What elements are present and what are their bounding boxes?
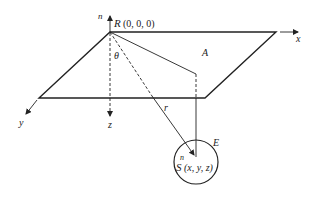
label-sphere-e: E	[212, 137, 219, 148]
label-target-coords: (x, y, z)	[184, 162, 214, 174]
label-r: r	[164, 102, 168, 113]
label-target-s: S	[176, 161, 182, 173]
projection-line	[110, 32, 196, 74]
y-axis-arrow	[26, 100, 37, 114]
r-distance-dashed	[110, 32, 152, 96]
plane-a	[39, 32, 276, 98]
label-origin-r: R	[113, 17, 121, 29]
label-x-axis: x	[295, 33, 301, 44]
r-distance-solid	[152, 96, 194, 155]
label-origin-coords: (0, 0, 0)	[123, 18, 155, 30]
coordinate-diagram: n R (0, 0, 0) x y z θ A r E n S (x, y, z…	[0, 0, 311, 198]
label-n-top: n	[98, 11, 103, 21]
label-plane-a: A	[201, 47, 209, 58]
label-y-axis: y	[18, 117, 24, 128]
label-theta: θ	[114, 50, 119, 61]
diagram-canvas: n R (0, 0, 0) x y z θ A r E n S (x, y, z…	[0, 0, 311, 198]
label-z-axis: z	[107, 119, 112, 130]
